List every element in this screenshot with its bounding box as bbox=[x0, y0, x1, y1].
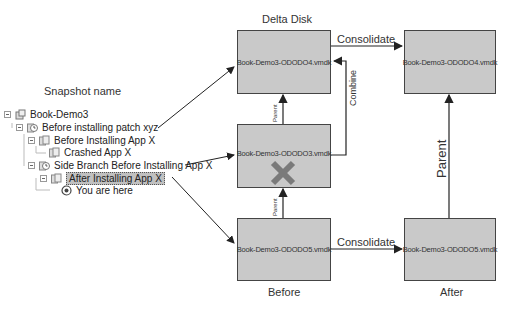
tree-node-you-are-here[interactable]: You are here bbox=[61, 185, 133, 196]
combine-label: Combine bbox=[348, 70, 358, 106]
disk-filename: Book-Demo3-ODODO5.vmdk bbox=[403, 245, 497, 254]
consolidate-top-label: Consolidate bbox=[337, 33, 395, 45]
disk-filename: Book-Demo3-ODODO3.vmdk bbox=[237, 149, 331, 158]
tree-node-label: Before Installing App X bbox=[54, 135, 155, 146]
tree-node-book-demo3[interactable]: Book-Demo3 bbox=[4, 109, 88, 120]
tree-node-label: You are here bbox=[76, 185, 133, 196]
parent-right-label: Parent bbox=[434, 140, 449, 178]
tree-node-after-app-x[interactable]: After Installing App X bbox=[40, 172, 165, 185]
tree-node-label: Side Branch Before Installing App X bbox=[54, 160, 212, 171]
consolidate-bottom-label: Consolidate bbox=[337, 236, 395, 248]
collapse-toggle[interactable] bbox=[28, 162, 35, 169]
collapse-toggle[interactable] bbox=[28, 137, 35, 144]
snapshot-icon bbox=[49, 147, 60, 158]
collapse-toggle[interactable] bbox=[40, 175, 47, 182]
disk-filename: Book-Demo3-ODODO5.vmdk bbox=[237, 245, 331, 254]
tree-node-crashed-app-x[interactable]: Crashed App X bbox=[49, 147, 131, 158]
after-label: After bbox=[440, 286, 463, 298]
snapshot-icon bbox=[39, 135, 50, 146]
disk-box-bottom-left: Book-Demo3-ODODO5.vmdk bbox=[237, 218, 331, 281]
arrow-patch-to-odo4 bbox=[158, 67, 234, 128]
tree-node-label: Before installing patch xyz bbox=[42, 122, 158, 133]
tree-node-label: Book-Demo3 bbox=[30, 109, 88, 120]
parent-upper-label: Parent bbox=[272, 104, 278, 122]
disk-box-top-right: Book-Demo3-ODODO4.vmdk bbox=[404, 30, 496, 94]
tree-node-label-selected: After Installing App X bbox=[66, 172, 165, 185]
collapse-toggle[interactable] bbox=[4, 111, 11, 118]
snapshot-name-label: Snapshot name bbox=[44, 85, 121, 97]
you-are-here-icon bbox=[61, 185, 72, 196]
collapse-toggle[interactable] bbox=[16, 124, 23, 131]
snapshot-clock-icon bbox=[39, 160, 50, 171]
arrow-combine bbox=[330, 61, 346, 155]
delta-disk-label: Delta Disk bbox=[262, 13, 312, 25]
disk-box-top-left: Book-Demo3-ODODO4.vmdk bbox=[237, 30, 331, 94]
tree-node-before-app-x[interactable]: Before Installing App X bbox=[28, 135, 155, 146]
disk-box-middle: Book-Demo3-ODODO3.vmdk bbox=[237, 124, 331, 188]
disk-filename: Book-Demo3-ODODO4.vmdk bbox=[237, 58, 331, 67]
tree-node-before-patch[interactable]: Before installing patch xyz bbox=[16, 122, 158, 133]
parent-lower-label: Parent bbox=[272, 198, 278, 216]
disk-filename: Book-Demo3-ODODO4.vmdk bbox=[403, 58, 497, 67]
arrow-after-to-odo5 bbox=[172, 177, 234, 243]
vm-icon bbox=[15, 109, 26, 120]
tree-node-label: Crashed App X bbox=[64, 147, 131, 158]
snapshot-icon bbox=[51, 173, 62, 184]
disk-box-bottom-right: Book-Demo3-ODODO5.vmdk bbox=[404, 218, 496, 281]
before-label: Before bbox=[268, 286, 300, 298]
tree-node-side-branch[interactable]: Side Branch Before Installing App X bbox=[28, 160, 212, 171]
snapshot-clock-icon bbox=[27, 122, 38, 133]
